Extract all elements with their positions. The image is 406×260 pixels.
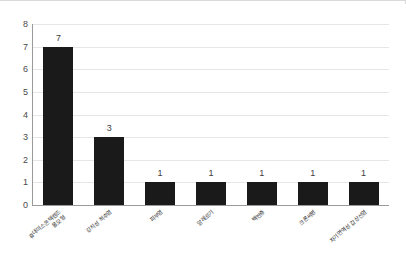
bar-slot[interactable]: 1	[236, 24, 287, 205]
x-tick-slot: 휴대미스콘택렌즈물모형	[33, 206, 84, 260]
x-tick-label: 휴대미스콘택렌즈물모형	[28, 209, 67, 245]
x-tick-label-line1: 알레르기	[196, 209, 215, 226]
x-tick-label-line1: 강직성 척추염	[85, 209, 113, 234]
y-tick-label: 8	[4, 20, 28, 29]
y-axis-tick-labels: 876543210	[0, 24, 28, 206]
bar-chart: 876543210 7311111 휴대미스콘택렌즈물모형강직성 척추염피부염알…	[0, 0, 406, 260]
bar-slot[interactable]: 1	[186, 24, 237, 205]
x-axis-category-labels: 휴대미스콘택렌즈물모형강직성 척추염피부염알레르기백반증크론씨병자기면역성 갑상…	[33, 206, 389, 260]
chart-top-border	[0, 0, 406, 1]
x-tick-label: 알레르기	[196, 209, 216, 227]
y-tick-label: 7	[4, 43, 28, 52]
bar-value-label: 1	[361, 169, 366, 178]
bar[interactable]	[247, 182, 277, 205]
bar[interactable]	[349, 182, 379, 205]
x-tick-slot: 백반증	[236, 206, 287, 260]
bar-value-label: 1	[259, 169, 264, 178]
x-tick-slot: 자기면역성 갑상선염	[338, 206, 389, 260]
y-tick-label: 0	[4, 201, 28, 210]
bar-slot[interactable]: 1	[287, 24, 338, 205]
bars-layer: 7311111	[33, 24, 389, 205]
x-tick-slot: 알레르기	[186, 206, 237, 260]
bar-value-label: 3	[107, 124, 112, 133]
bar[interactable]	[196, 182, 226, 205]
y-tick-label: 4	[4, 111, 28, 120]
x-tick-label-line1: 백반증	[250, 209, 265, 223]
bar-slot[interactable]: 1	[338, 24, 389, 205]
bar[interactable]	[298, 182, 328, 205]
y-tick-label: 1	[4, 178, 28, 187]
x-tick-label: 백반증	[250, 209, 266, 224]
bar-value-label: 1	[158, 169, 163, 178]
y-tick-label: 6	[4, 65, 28, 74]
x-tick-slot: 피부염	[135, 206, 186, 260]
bar-value-label: 1	[208, 169, 213, 178]
x-tick-slot: 강직성 척추염	[84, 206, 135, 260]
x-tick-label: 피부염	[149, 209, 165, 224]
bar[interactable]	[145, 182, 175, 205]
x-tick-label-line1: 크론씨병	[297, 209, 316, 226]
bar-slot[interactable]: 1	[135, 24, 186, 205]
bar-value-label: 7	[56, 34, 61, 43]
x-tick-slot: 크론씨병	[287, 206, 338, 260]
y-tick-label: 2	[4, 156, 28, 165]
x-tick-label: 크론씨병	[297, 209, 317, 227]
bar[interactable]	[43, 47, 73, 205]
bar[interactable]	[94, 137, 124, 205]
x-tick-label-line1: 피부염	[149, 209, 164, 223]
bar-slot[interactable]: 7	[33, 24, 84, 205]
y-tick-label: 5	[4, 88, 28, 97]
bar-value-label: 1	[310, 169, 315, 178]
y-tick-label: 3	[4, 133, 28, 142]
x-tick-label: 강직성 척추염	[85, 209, 114, 235]
bar-slot[interactable]: 3	[84, 24, 135, 205]
